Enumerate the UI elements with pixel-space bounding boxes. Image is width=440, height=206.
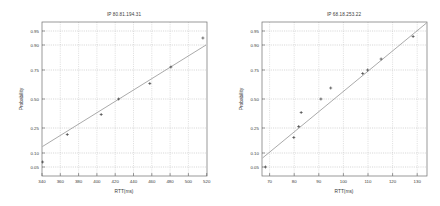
x-tick-left-5: 440 [130, 179, 138, 184]
y-tick-left-1: 0.10 [30, 151, 39, 156]
y-tick-left-2: 0.25 [30, 126, 39, 131]
y-tick-left-6: 0.95 [30, 29, 39, 34]
x-tick-left-9: 520 [203, 179, 211, 184]
reference-line-left [43, 45, 207, 147]
x-axis-ticks-right: 70 80 90 100 110 120 130 [267, 173, 421, 184]
x-tick-right-4: 110 [365, 179, 373, 184]
chart-svg-right: IP 68.18.253.22 [220, 0, 440, 206]
y-tick-right-5: 0.90 [250, 43, 259, 48]
x-axis-label-right: RTT(ms) [335, 189, 354, 194]
y-axis-ticks-left: 0.95 0.90 0.75 0.50 0.25 0.10 0.05 [30, 29, 45, 170]
x-tick-left-0: 340 [38, 179, 46, 184]
y-tick-left-3: 0.50 [30, 97, 39, 102]
x-tick-right-0: 70 [267, 179, 272, 184]
y-axis-ticks-right: 0.95 0.90 0.75 0.50 0.25 0.10 0.05 [250, 29, 265, 170]
x-tick-right-1: 80 [292, 179, 297, 184]
x-tick-left-6: 460 [148, 179, 156, 184]
x-axis-ticks-left: 340 360 380 400 420 440 460 480 500 520 [38, 173, 211, 184]
x-tick-left-3: 400 [93, 179, 101, 184]
chart-title-right: IP 68.18.253.22 [327, 12, 361, 17]
grid-left [42, 22, 207, 176]
x-tick-left-2: 380 [75, 179, 83, 184]
y-tick-right-1: 0.10 [250, 151, 259, 156]
y-axis-label-right: Probability [239, 87, 244, 110]
y-tick-left-5: 0.90 [30, 43, 39, 48]
reference-line-right [263, 23, 427, 158]
x-tick-left-1: 360 [57, 179, 65, 184]
chart-title-left: IP 80.81.194.31 [107, 12, 141, 17]
probability-plot-figure: IP 80.81.194.31 [0, 0, 440, 206]
y-tick-right-6: 0.95 [250, 29, 259, 34]
y-tick-left-0: 0.05 [30, 165, 39, 170]
y-tick-right-0: 0.05 [250, 165, 259, 170]
x-tick-left-8: 500 [185, 179, 193, 184]
x-tick-left-7: 480 [166, 179, 174, 184]
y-tick-left-4: 0.75 [30, 68, 39, 73]
chart-panel-left: IP 80.81.194.31 [0, 0, 220, 206]
x-tick-right-6: 130 [414, 179, 422, 184]
chart-svg-left: IP 80.81.194.31 [0, 0, 220, 206]
y-tick-right-4: 0.75 [250, 68, 259, 73]
x-tick-right-5: 120 [389, 179, 397, 184]
data-points-left [41, 37, 204, 164]
x-tick-right-3: 100 [340, 179, 348, 184]
grid-right [262, 22, 427, 176]
x-tick-left-4: 420 [112, 179, 120, 184]
y-axis-label-left: Probability [19, 87, 24, 110]
x-tick-right-2: 90 [316, 179, 321, 184]
data-points-right [264, 35, 415, 169]
chart-panel-right: IP 68.18.253.22 [220, 0, 440, 206]
y-tick-right-2: 0.25 [250, 126, 259, 131]
y-tick-right-3: 0.50 [250, 97, 259, 102]
x-axis-label-left: RTT(ms) [115, 189, 134, 194]
